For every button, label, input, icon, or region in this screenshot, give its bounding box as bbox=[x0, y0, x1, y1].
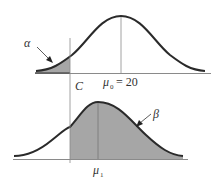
mu1-symbol: μ bbox=[92, 163, 99, 177]
critical-value-label: C bbox=[75, 79, 84, 93]
beta-annotation: β bbox=[136, 107, 159, 127]
mu0-label: μ 0 = 20 bbox=[102, 75, 138, 91]
top-distribution bbox=[35, 16, 211, 74]
bottom-distribution bbox=[13, 102, 188, 160]
mu0-subscript: 0 bbox=[110, 83, 114, 91]
alpha-label: α bbox=[24, 36, 31, 50]
mu1-label: μ 1 bbox=[92, 163, 104, 179]
mu0-value: = 20 bbox=[116, 75, 138, 89]
mu1-subscript: 1 bbox=[100, 171, 104, 179]
alpha-annotation: α bbox=[24, 36, 53, 63]
top-bell-curve bbox=[36, 16, 205, 71]
hypothesis-test-diagram: α C μ 0 = 20 β μ 1 bbox=[0, 0, 221, 182]
beta-arrow-shaft bbox=[140, 114, 151, 123]
beta-label: β bbox=[152, 107, 159, 121]
mu0-symbol: μ bbox=[102, 75, 109, 89]
